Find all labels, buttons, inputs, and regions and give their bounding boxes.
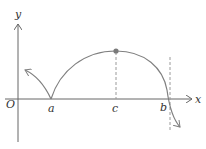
point-c-label: c [112,102,118,115]
point-a-label: a [48,102,55,115]
function-graph-figure: y x O a c b [0,0,206,149]
x-axis-label: x [195,93,202,106]
curve-left-branch [25,70,51,99]
maximum-point-marker [113,48,118,53]
origin-label: O [6,98,15,111]
point-b-label: b [160,101,167,114]
graph-canvas: y x O a c b [0,0,206,149]
y-axis-label: y [14,8,22,21]
